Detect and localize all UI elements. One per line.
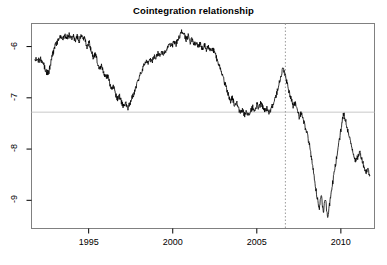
x-tick-label: 2000 [153,237,193,247]
plot-border [32,24,375,229]
x-axis-ticks [89,229,341,234]
x-tick-label: 2005 [237,237,277,247]
y-tick-label: -9 [9,191,19,207]
y-tick-label: -7 [9,89,19,105]
data-series-line [35,30,370,218]
x-tick-label: 1995 [69,237,109,247]
y-tick-label: -8 [9,140,19,156]
x-tick-label: 2010 [321,237,361,247]
y-tick-label: -6 [9,38,19,54]
cointegration-chart: Cointegration relationship -6-7-8-919952… [0,0,387,265]
plot-area [0,0,387,265]
plot-frame [32,24,375,229]
y-axis-ticks [27,47,32,201]
